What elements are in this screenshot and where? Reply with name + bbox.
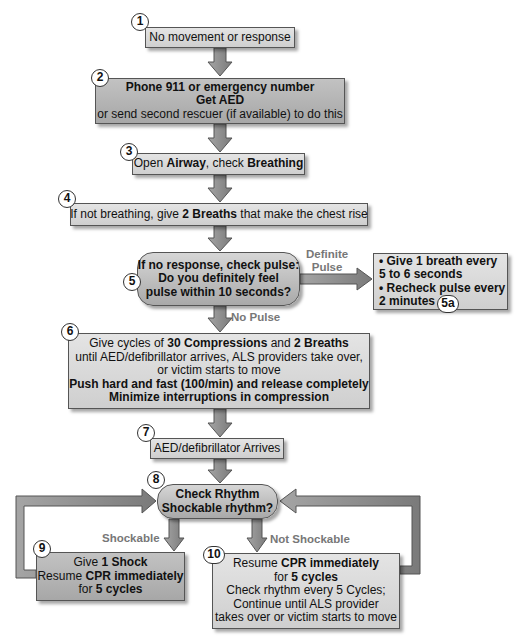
step-number-badge: 1 — [131, 13, 149, 31]
step-9-box: Give 1 Shock Resume CPR immediately for … — [36, 552, 185, 601]
step-number-badge: 5a — [437, 295, 459, 313]
step-6-line-3: or victim starts to move — [157, 364, 280, 378]
step-6-line-5: Minimize interruptions in compression — [109, 390, 329, 404]
arrow-5-to-6 — [208, 306, 232, 332]
step-6-line-4: Push hard and fast (100/min) and release… — [69, 377, 368, 391]
step-4-text: If not breathing, give 2 Breaths that ma… — [70, 208, 368, 222]
step-number-badge: 7 — [137, 424, 155, 442]
step-5a-line-3: • Recheck pulse every — [379, 282, 505, 296]
step-6-line-1: Give cycles of 30 Compressions and 2 Bre… — [89, 337, 348, 351]
step-5-line-2: Do you definitely feel — [158, 272, 279, 286]
step-8-line-1: Check Rhythm — [175, 488, 259, 502]
step-6-line-2: until AED/defibrillator arrives, ALS pro… — [75, 351, 362, 365]
step-3-box: Open Airway, check Breathing — [132, 153, 305, 175]
step-5-line-3: pulse within 10 seconds? — [146, 286, 291, 300]
step-number-badge: 8 — [147, 471, 165, 489]
step-3-text: Open Airway, check Breathing — [134, 157, 303, 171]
step-number-badge: 6 — [61, 323, 79, 341]
step-number-badge: 10 — [203, 546, 225, 564]
step-9-line-1: Give 1 Shock — [73, 556, 147, 570]
step-2-line-2: Get AED — [196, 93, 244, 107]
step-7-text: AED/defibrillator Arrives — [154, 442, 281, 456]
arrow-3-to-4 — [208, 175, 232, 202]
branch-label-shockable: Shockable — [102, 532, 160, 545]
step-5a-line-1: • Give 1 breath every — [379, 255, 497, 269]
arrow-7-to-8 — [208, 459, 232, 483]
step-9-line-3: for 5 cycles — [78, 583, 142, 597]
step-5-decision: If no response, check pulse: Do you defi… — [137, 252, 300, 306]
branch-label-not-shockable: Not Shockable — [270, 533, 350, 546]
step-1-box: No movement or response — [145, 27, 295, 48]
step-2-line-3: or send second rescuer (if available) to… — [97, 108, 342, 122]
step-4-box: If not breathing, give 2 Breaths that ma… — [70, 203, 368, 226]
step-5a-line-2: 5 to 6 seconds — [379, 268, 462, 282]
arrow-6-to-7 — [208, 409, 232, 437]
arrow-2-to-3 — [208, 124, 232, 152]
step-7-box: AED/defibrillator Arrives — [150, 438, 284, 459]
step-number-badge: 3 — [120, 143, 138, 161]
step-number-badge: 9 — [33, 540, 51, 558]
step-10-line-3: Check rhythm every 5 Cycles; — [226, 584, 385, 598]
arrow-1-to-2 — [208, 48, 232, 76]
step-2-line-1: Phone 911 or emergency number — [126, 80, 315, 94]
step-1-text: No movement or response — [149, 31, 290, 45]
step-6-box: Give cycles of 30 Compressions and 2 Bre… — [68, 333, 370, 409]
arrow-4-to-5 — [208, 226, 232, 251]
step-number-badge: 5 — [123, 273, 141, 291]
branch-label-definite-pulse: Definite Pulse — [306, 248, 348, 274]
step-8-line-2: Shockable rhythm? — [162, 502, 273, 516]
step-10-line-5: takes over or victim starts to move — [215, 611, 397, 625]
step-number-badge: 2 — [91, 69, 109, 87]
step-10-line-1: Resume CPR immediately — [233, 557, 379, 571]
step-9-line-2: Resume CPR immediately — [37, 570, 183, 584]
step-10-line-4: Continue until ALS provider — [233, 598, 378, 612]
step-10-box: Resume CPR immediately for 5 cycles Chec… — [212, 553, 400, 629]
step-number-badge: 4 — [58, 190, 76, 208]
branch-label-no-pulse: No Pulse — [231, 311, 280, 324]
step-8-decision: Check Rhythm Shockable rhythm? — [157, 484, 278, 519]
step-5-line-1: If no response, check pulse: — [138, 259, 299, 273]
step-2-box: Phone 911 or emergency number Get AED or… — [95, 78, 345, 124]
step-10-line-2: for 5 cycles — [274, 571, 338, 585]
arrow-8-to-10 — [247, 519, 267, 552]
arrow-8-to-9 — [164, 519, 184, 551]
step-5a-line-4: 2 minutes — [379, 295, 435, 309]
